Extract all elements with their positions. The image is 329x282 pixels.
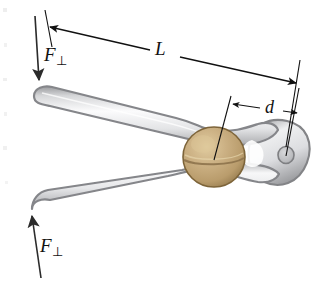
scan-artifacts <box>3 8 8 184</box>
walnut <box>183 127 245 187</box>
force-symbol-top: F <box>44 44 56 65</box>
length-label: L <box>155 38 166 60</box>
force-arrow-top <box>35 16 39 80</box>
distance-label: d <box>265 97 274 118</box>
force-label-bottom: F⊥ <box>40 235 63 260</box>
upper-handle <box>34 86 278 145</box>
length-arrow-right <box>180 57 296 83</box>
force-symbol-bottom: F <box>40 235 52 256</box>
length-extension-left <box>45 10 52 47</box>
nutcracker-figure: F⊥ F⊥ L d <box>0 0 329 282</box>
distance-arrow-left <box>233 104 260 108</box>
force-subscript-top: ⊥ <box>56 53 67 68</box>
force-label-top: F⊥ <box>44 44 67 69</box>
force-subscript-bottom: ⊥ <box>52 244 63 259</box>
